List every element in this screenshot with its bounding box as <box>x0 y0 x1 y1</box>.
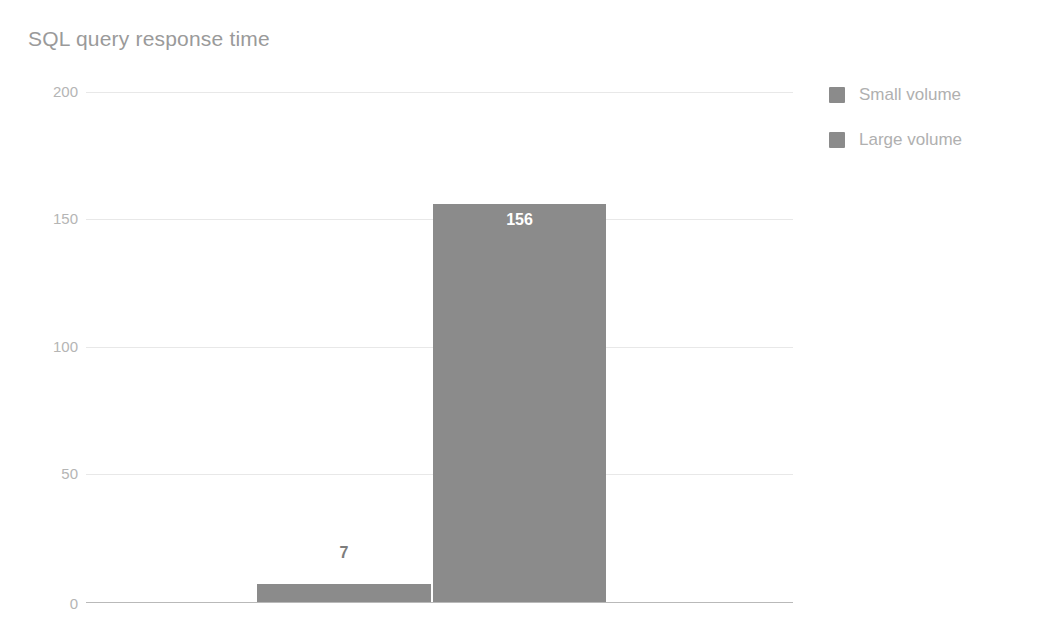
legend-swatch-icon <box>829 132 845 148</box>
bar-large-volume[interactable] <box>433 204 606 602</box>
y-axis-tick-150: 150 <box>0 211 78 227</box>
x-axis-line <box>86 602 793 603</box>
legend-swatch-icon <box>829 87 845 103</box>
y-axis-tick-label: 200 <box>14 84 78 100</box>
y-axis-tick-label: 150 <box>14 211 78 227</box>
legend: Small volume Large volume <box>829 84 962 174</box>
y-axis-tick-label: 50 <box>14 466 78 482</box>
y-axis-tick-100: 100 <box>0 339 78 355</box>
bar-value-large-volume: 156 <box>433 211 606 229</box>
legend-item-label: Small volume <box>859 85 961 105</box>
y-axis-tick-label: 0 <box>14 596 78 612</box>
bar-small-volume[interactable] <box>257 584 431 602</box>
y-axis-tick-50: 50 <box>0 466 78 482</box>
y-axis-tick-label: 100 <box>14 339 78 355</box>
legend-item-large-volume[interactable]: Large volume <box>829 129 962 151</box>
bar-chart: SQL query response time 200 150 100 50 0… <box>0 0 1039 636</box>
legend-item-label: Large volume <box>859 130 962 150</box>
bar-value-small-volume: 7 <box>257 544 431 562</box>
y-axis-tick-200: 200 <box>0 84 78 100</box>
y-axis-tick-0: 0 <box>0 596 78 612</box>
gridline-200 <box>86 92 793 93</box>
legend-item-small-volume[interactable]: Small volume <box>829 84 962 106</box>
